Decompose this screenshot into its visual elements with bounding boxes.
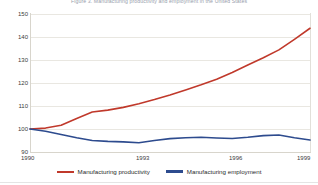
legend-item-manufacturing-productivity[interactable]: Manufacturing productivity	[57, 168, 150, 175]
legend-label: Manufacturing productivity	[78, 168, 150, 175]
y-tick-label-100: 100	[4, 126, 28, 132]
gridline-100	[30, 129, 311, 130]
x-tick-label-1999: 1999	[297, 155, 310, 161]
legend-swatch-icon	[57, 171, 74, 173]
gridline-150	[30, 14, 311, 15]
plot-right-border	[310, 13, 311, 153]
y-tick-label-140: 140	[4, 34, 28, 40]
gridline-120	[30, 83, 311, 84]
chart-container: Figure 3. Manufacturing productivity and…	[0, 0, 318, 185]
y-tick-label-120: 120	[4, 80, 28, 86]
legend-swatch-icon	[166, 170, 183, 172]
x-axis-line	[30, 152, 311, 153]
chart-legend: Manufacturing productivity Manufacturing…	[0, 168, 318, 175]
y-axis-line	[30, 13, 31, 153]
y-tick-label-130: 130	[4, 57, 28, 63]
x-tick-label-1996: 1996	[229, 155, 242, 161]
series-plot	[0, 0, 318, 185]
series-line-manufacturing-productivity	[30, 28, 310, 129]
x-tick-label-1993: 1993	[136, 155, 149, 161]
gridline-110	[30, 106, 311, 107]
gridline-140	[30, 37, 311, 38]
series-line-manufacturing-employment	[30, 129, 310, 143]
x-tick-label-1990: 1990	[21, 155, 34, 161]
gridline-130	[30, 60, 311, 61]
y-tick-label-110: 110	[4, 103, 28, 109]
legend-item-manufacturing-employment[interactable]: Manufacturing employment	[166, 168, 262, 175]
y-tick-label-150: 150	[4, 11, 28, 17]
chart-title: Figure 3. Manufacturing productivity and…	[0, 0, 318, 5]
figure-bottom-border	[0, 182, 318, 183]
legend-label: Manufacturing employment	[187, 168, 262, 175]
